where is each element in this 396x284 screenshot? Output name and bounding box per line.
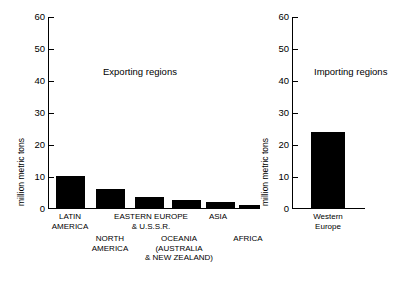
catlabel-oceania: OCEANIA (AUSTRALIA & NEW ZEALAND) bbox=[136, 234, 222, 263]
left-tick-30 bbox=[49, 113, 54, 114]
bar-asia bbox=[206, 202, 235, 208]
catlabel-latin-america-line2: AMERICA bbox=[52, 222, 88, 231]
right-tick-30 bbox=[293, 113, 298, 114]
right-ticklabel-10: 10 bbox=[269, 172, 289, 182]
right-ticklabel-30: 30 bbox=[269, 108, 289, 118]
catlabel-eastern-europe-line1: EASTERN EUROPE bbox=[114, 212, 188, 221]
catlabel-oceania-line3: & NEW ZEALAND) bbox=[145, 253, 213, 262]
bar-oceania bbox=[172, 200, 201, 208]
catlabel-western-europe-line1: Western bbox=[313, 212, 343, 221]
bar-north-america bbox=[96, 189, 125, 208]
left-ticklabel-20: 20 bbox=[25, 140, 45, 150]
left-ticklabel-60: 60 bbox=[25, 12, 45, 22]
right-tick-40 bbox=[293, 81, 298, 82]
bar-latin-america bbox=[56, 176, 85, 208]
left-x-axis bbox=[48, 208, 260, 209]
exporting-regions-annotation: Exporting regions bbox=[103, 66, 177, 77]
catlabel-north-america-line1: NORTH bbox=[96, 234, 124, 243]
catlabel-western-europe: Western Europe bbox=[300, 212, 356, 231]
catlabel-eastern-europe-line2: & U.S.S.R. bbox=[132, 222, 171, 231]
right-x-axis bbox=[292, 208, 365, 209]
right-ticklabel-40: 40 bbox=[269, 76, 289, 86]
catlabel-latin-america-line1: LATIN bbox=[59, 212, 81, 221]
left-ticklabel-10: 10 bbox=[25, 172, 45, 182]
catlabel-oceania-line1: OCEANIA bbox=[161, 234, 197, 243]
left-ticklabel-50: 50 bbox=[25, 44, 45, 54]
bar-africa bbox=[239, 205, 260, 208]
right-tick-60 bbox=[293, 17, 298, 18]
right-tick-10 bbox=[293, 177, 298, 178]
catlabel-western-europe-line2: Europe bbox=[315, 222, 341, 231]
catlabel-africa: AFRICA bbox=[222, 234, 274, 244]
left-tick-20 bbox=[49, 145, 54, 146]
left-tick-50 bbox=[49, 49, 54, 50]
bar-western-europe bbox=[311, 132, 345, 208]
right-axis-title: million metric tons bbox=[260, 138, 270, 206]
catlabel-oceania-line2: (AUSTRALIA bbox=[155, 244, 202, 253]
clipped-title-remnant bbox=[150, 0, 260, 6]
left-tick-40 bbox=[49, 81, 54, 82]
figure-canvas: 60 50 40 30 20 10 0 million metric tons … bbox=[0, 0, 396, 284]
catlabel-north-america-line2: AMERICA bbox=[92, 244, 128, 253]
left-axis-title: million metric tons bbox=[16, 138, 26, 206]
right-ticklabel-20: 20 bbox=[269, 140, 289, 150]
right-tick-50 bbox=[293, 49, 298, 50]
importing-regions-annotation: Importing regions bbox=[314, 66, 387, 77]
left-ticklabel-40: 40 bbox=[25, 76, 45, 86]
catlabel-eastern-europe-ussr: EASTERN EUROPE & U.S.S.R. bbox=[97, 212, 205, 231]
left-ticklabel-30: 30 bbox=[25, 108, 45, 118]
left-tick-10 bbox=[49, 177, 54, 178]
right-ticklabel-60: 60 bbox=[269, 12, 289, 22]
catlabel-latin-america: LATIN AMERICA bbox=[40, 212, 100, 231]
right-tick-20 bbox=[293, 145, 298, 146]
bar-eastern-europe-ussr bbox=[135, 197, 164, 208]
catlabel-asia: ASIA bbox=[195, 212, 241, 222]
catlabel-north-america: NORTH AMERICA bbox=[79, 234, 141, 253]
left-tick-60 bbox=[49, 17, 54, 18]
right-ticklabel-0: 0 bbox=[269, 204, 289, 214]
right-ticklabel-50: 50 bbox=[269, 44, 289, 54]
